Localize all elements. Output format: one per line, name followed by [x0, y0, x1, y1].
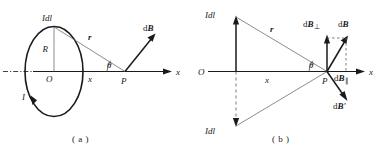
dB-vector-arrowhead-b — [341, 36, 348, 44]
label-r-a: r — [88, 32, 92, 42]
label-x-distance-a: x — [87, 74, 92, 84]
panel-b: Idl Idl O r x θ P x dB⊥ dB dB∥ dB’ ( b ) — [198, 10, 373, 144]
label-dB-perp: dB⊥ — [303, 19, 320, 30]
label-current-element-b-top: Idl — [204, 10, 215, 20]
label-dB-a: dB — [143, 23, 154, 33]
label-current-element-b-bottom: Idl — [204, 126, 215, 136]
x-axis-arrowhead-b — [356, 69, 365, 75]
label-dB-prime: dB’ — [333, 101, 347, 111]
diagram-canvas: Idl R O r x θ P x I dB ( a ) — [0, 0, 387, 159]
dB-vector-arrowhead — [147, 34, 155, 42]
label-point-P-b: P — [321, 76, 328, 86]
panel-a: Idl R O r x θ P x I dB ( a ) — [3, 13, 180, 144]
label-theta-a: θ — [107, 60, 112, 70]
label-radius: R — [42, 44, 49, 54]
label-dB-parallel: dB∥ — [334, 73, 349, 85]
label-r-b: r — [270, 24, 274, 34]
physics-diagram-figure: Idl R O r x θ P x I dB ( a ) — [0, 0, 387, 159]
caption-panel-a: ( a ) — [72, 134, 89, 144]
label-current-I: I — [21, 92, 26, 102]
label-point-P-a: P — [120, 76, 127, 86]
label-x-distance-b: x — [264, 75, 269, 85]
label-x-axis-a: x — [175, 67, 180, 77]
x-axis-arrowhead — [163, 69, 172, 75]
dB-vector-line-b — [327, 41, 345, 72]
dB-perp-arrowhead — [324, 35, 330, 44]
caption-panel-b: ( b ) — [272, 134, 290, 144]
label-current-element-a: Idl — [41, 13, 52, 23]
label-theta-b: θ — [309, 60, 314, 70]
label-origin-b: O — [198, 67, 205, 77]
current-element-top-arrowhead — [233, 16, 239, 25]
label-origin-a: O — [46, 74, 53, 84]
r-line-b-bottom — [236, 72, 327, 127]
label-dB-b: dB — [338, 19, 349, 29]
dB-prime-arrowhead — [339, 91, 347, 101]
label-x-axis-b: x — [368, 67, 373, 77]
dB-vector-line — [125, 38, 152, 72]
